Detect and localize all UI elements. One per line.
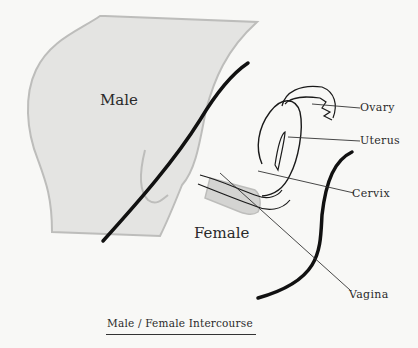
female-label: Female <box>194 224 249 242</box>
uterus-shape <box>258 101 301 196</box>
uterus-cavity <box>275 132 285 170</box>
caption-underline <box>106 334 256 335</box>
vagina-label: Vagina <box>349 288 389 301</box>
uterus-leader-line <box>288 137 360 141</box>
cervix-label: Cervix <box>352 187 390 200</box>
cervix-leader-line <box>258 171 354 193</box>
ovary-label: Ovary <box>360 101 395 114</box>
diagram-canvas: Male Female Ovary Uterus Cervix Vagina M… <box>0 0 418 348</box>
ovary-leader-line <box>312 104 360 108</box>
uterus-label: Uterus <box>360 134 400 147</box>
ovary-fimbriae <box>320 98 332 120</box>
male-label: Male <box>100 91 138 109</box>
male-organ <box>205 178 260 214</box>
diagram-caption: Male / Female Intercourse <box>107 317 253 329</box>
